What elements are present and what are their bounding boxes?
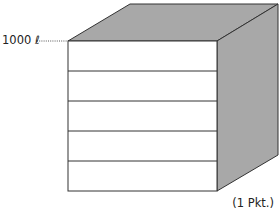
cube-front-face [68,41,217,191]
cube-diagram [0,0,280,215]
capacity-label: 1000 ℓ [2,33,40,47]
points-label: (1 Pkt.) [232,196,274,210]
